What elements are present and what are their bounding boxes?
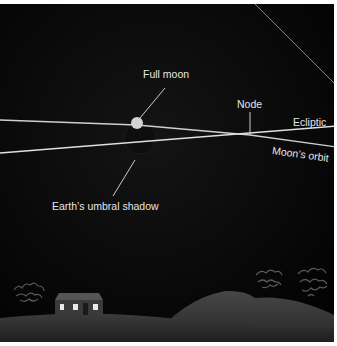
label-ecliptic: Ecliptic xyxy=(293,117,326,128)
label-earths-umbral-shadow: Earth’s umbral shadow xyxy=(52,201,159,212)
house-window xyxy=(93,304,98,310)
label-node: Node xyxy=(237,99,262,110)
house-door xyxy=(83,303,88,315)
house xyxy=(55,293,103,315)
diagram-graphics xyxy=(0,4,334,342)
house-window xyxy=(73,304,78,310)
full-moon xyxy=(131,117,143,129)
house-window xyxy=(60,304,64,310)
sky-background xyxy=(0,4,334,342)
night-sky-scene: Full moon Node Ecliptic Moon’s orbit Ear… xyxy=(0,4,334,342)
label-full-moon: Full moon xyxy=(143,69,189,80)
